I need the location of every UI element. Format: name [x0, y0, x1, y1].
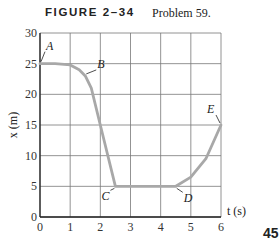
y-tick-label: 5	[31, 179, 37, 193]
y-tick-label: 0	[31, 210, 37, 224]
x-tick-label: 3	[128, 220, 134, 234]
x-tick-label: 4	[158, 220, 164, 234]
annotation-arrow	[177, 188, 183, 192]
x-tick-label: 5	[188, 220, 194, 234]
x-axis-label: t (s)	[227, 204, 246, 218]
y-tick-label: 10	[25, 149, 37, 163]
x-tick-label: 1	[67, 220, 73, 234]
x-tick-label: 0	[37, 220, 43, 234]
y-axis-label: x (m)	[6, 112, 20, 138]
point-label-e: E	[206, 102, 215, 116]
point-label-b: B	[97, 57, 105, 71]
x-tick-label: 2	[97, 220, 103, 234]
y-tick-label: 25	[25, 57, 37, 71]
x-tick-label: 6	[218, 220, 224, 234]
position-time-chart: 0123456051015202530t (s)x (m)ABCDE	[0, 0, 280, 245]
point-label-a: A	[45, 39, 54, 53]
point-label-c: C	[101, 189, 110, 203]
point-label-d: D	[183, 191, 193, 205]
annotation-arrow	[110, 188, 114, 190]
annotation-arrow	[216, 115, 220, 123]
annotation-arrow	[86, 70, 96, 74]
y-tick-label: 20	[25, 87, 37, 101]
y-tick-label: 30	[25, 26, 37, 40]
y-tick-label: 15	[25, 118, 37, 132]
annotation-arrow	[41, 52, 45, 62]
